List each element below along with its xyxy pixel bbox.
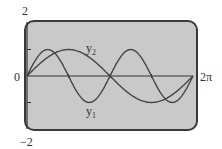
y2-label: y2 (86, 41, 96, 57)
y1-label: y1 (86, 104, 96, 120)
plot-area: y2 y1 (0, 0, 222, 149)
